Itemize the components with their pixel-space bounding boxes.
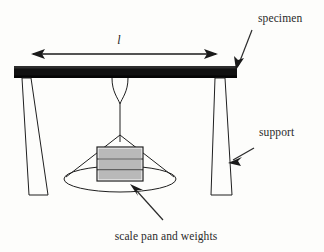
scale-pan-leader-line: [136, 190, 163, 220]
beam-bottom-shadow: [14, 76, 237, 79]
span-dimension-arrow: [31, 49, 218, 59]
support-annotation: support: [228, 126, 295, 166]
support-leader-line: [233, 148, 254, 160]
left-support: [22, 78, 48, 195]
left-support-outline: [22, 78, 48, 195]
specimen-beam: [14, 66, 237, 78]
bending-test-diagram: specimen support scale pan and weights l: [0, 0, 324, 252]
scale-pan-arrowhead: [130, 184, 143, 196]
weight-band-3: [99, 171, 142, 180]
right-support: [211, 78, 232, 195]
weight-band-1: [99, 149, 142, 159]
specimen-label: specimen: [258, 12, 302, 25]
hanger-cord: [112, 78, 128, 135]
weight-band-2: [99, 160, 142, 169]
scale-pan-label: scale pan and weights: [115, 230, 218, 243]
right-support-outline: [211, 78, 232, 195]
figure-container: specimen support scale pan and weights l: [0, 0, 324, 252]
weights-stack: [97, 147, 143, 181]
cord-loop: [112, 78, 128, 104]
span-dimension-label: l: [117, 33, 121, 47]
scale-pan-annotation: scale pan and weights: [115, 184, 218, 243]
beam-top-highlight: [14, 66, 237, 69]
specimen-annotation: specimen: [234, 12, 302, 70]
support-label: support: [259, 126, 295, 139]
